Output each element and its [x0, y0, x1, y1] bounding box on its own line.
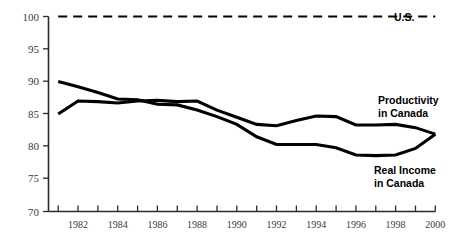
- x-tick-label-1996: 1996: [346, 219, 366, 230]
- y-tick-label-85: 85: [28, 108, 40, 120]
- y-tick-label-100: 100: [23, 11, 40, 23]
- x-tick-label-1994: 1994: [306, 219, 326, 230]
- x-tick-label-1990: 1990: [227, 219, 247, 230]
- chart-container: 100 95 90 85 80 75 70: [0, 0, 468, 249]
- x-tick-label-1984: 1984: [108, 219, 128, 230]
- y-tick-labels: 100 95 90 85 80 75 70: [23, 11, 40, 218]
- series-label-us: U.S.: [394, 11, 415, 23]
- series-label-productivity-line2: in Canada: [378, 107, 428, 119]
- series-label-productivity-line1: Productivity: [378, 94, 439, 106]
- x-tick-label-2000: 2000: [425, 219, 445, 230]
- x-tick-label-1986: 1986: [147, 219, 167, 230]
- x-tick-labels: 1982 1984 1986 1988 1990 1992 1994 1996 …: [68, 219, 445, 230]
- x-tick-label-1992: 1992: [267, 219, 287, 230]
- y-tick-label-90: 90: [28, 75, 40, 87]
- y-tick-label-80: 80: [28, 140, 40, 152]
- x-tick-label-1998: 1998: [386, 219, 406, 230]
- x-tick-label-1982: 1982: [68, 219, 88, 230]
- series-label-real-income-line1: Real Income: [374, 164, 436, 176]
- y-tick-label-95: 95: [28, 43, 40, 55]
- y-tick-label-70: 70: [28, 206, 40, 218]
- x-tick-marks: [58, 206, 435, 212]
- line-chart: 100 95 90 85 80 75 70: [0, 0, 468, 249]
- y-tick-label-75: 75: [28, 172, 40, 184]
- series-label-real-income-line2: in Canada: [374, 177, 424, 189]
- y-tick-marks: [43, 17, 49, 212]
- x-tick-label-1988: 1988: [187, 219, 207, 230]
